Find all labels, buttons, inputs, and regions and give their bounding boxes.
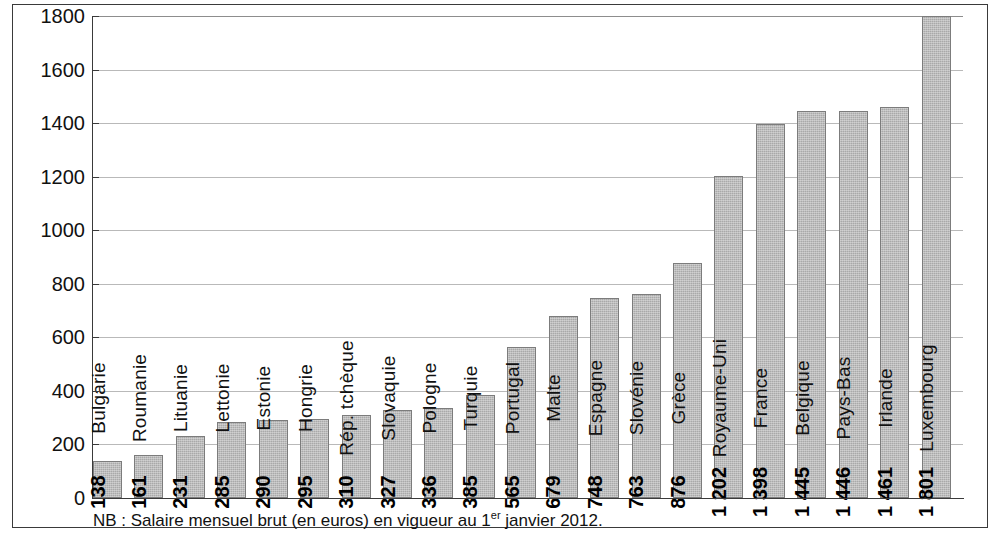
bar-category-label: Rép. tchèque	[337, 340, 356, 455]
bar-category-label: Malte	[544, 374, 563, 421]
y-tick-label: 200	[19, 434, 85, 454]
bar-group[interactable]: Belgique1 445	[797, 16, 826, 498]
bar-category-label: Bulgarie	[89, 362, 108, 433]
bar-group[interactable]: Pologne336	[424, 16, 453, 498]
y-tick-label: 1000	[19, 220, 85, 240]
y-tick-label: 400	[19, 381, 85, 401]
footnote-prefix: NB : Salaire mensuel brut (en euros) en …	[93, 511, 491, 530]
bar-category-label: Pologne	[420, 362, 439, 433]
y-tick-label: 0	[19, 488, 85, 508]
bar[interactable]	[797, 111, 826, 498]
bar-category-label: Royaume-Uni	[710, 339, 729, 457]
bar-value-label: 285	[212, 475, 232, 508]
bar-value-label: 763	[626, 475, 646, 508]
bar-group[interactable]: Royaume-Uni1 202	[714, 16, 743, 498]
bar-group[interactable]: Lettonie285	[217, 16, 246, 498]
y-tick-mark	[92, 177, 99, 178]
bar-value-label: 565	[502, 475, 522, 508]
y-tick-mark	[92, 391, 99, 392]
footnote-ordinal: er	[491, 509, 501, 521]
bar-group[interactable]: Roumanie161	[134, 16, 163, 498]
bar-category-label: Slovaquie	[379, 355, 398, 440]
bar-value-label: 748	[585, 475, 605, 508]
bar-group[interactable]: Rép. tchèque310	[342, 16, 371, 498]
bar-category-label: Turquie	[461, 365, 480, 430]
plot-area: Bulgarie138Roumanie161Lituanie231Lettoni…	[93, 16, 963, 498]
bar-group[interactable]: Luxembourg1 801	[922, 16, 951, 498]
y-tick-mark	[92, 16, 99, 17]
y-tick-mark	[92, 337, 99, 338]
bar-value-label: 161	[129, 475, 149, 508]
y-tick-label: 800	[19, 274, 85, 294]
bar-group[interactable]: Irlande1 461	[880, 16, 909, 498]
bar-category-label: Irlande	[876, 368, 895, 428]
bar-group[interactable]: Lituanie231	[176, 16, 205, 498]
y-tick-mark	[92, 70, 99, 71]
bar-category-label: Roumanie	[130, 354, 149, 442]
bar-category-label: France	[751, 368, 770, 428]
y-tick-mark	[92, 444, 99, 445]
bar-category-label: Pays-Bas	[834, 357, 853, 440]
bar-value-label: 385	[460, 475, 480, 508]
bar-group[interactable]: Hongrie295	[300, 16, 329, 498]
footnote-suffix: janvier 2012.	[501, 511, 603, 530]
bar-value-label: 290	[253, 475, 273, 508]
bar-group[interactable]: Espagne748	[590, 16, 619, 498]
y-tick-label: 1600	[19, 60, 85, 80]
bar-category-label: Luxembourg	[917, 344, 936, 452]
bar-value-label: 1 398	[750, 467, 770, 517]
bar-group[interactable]: Portugal565	[507, 16, 536, 498]
y-tick-mark	[92, 123, 99, 124]
y-tick-label: 600	[19, 327, 85, 347]
bar-category-label: Grèce	[669, 372, 688, 425]
bar-value-label: 1 461	[875, 467, 895, 517]
bar-value-label: 876	[668, 475, 688, 508]
bar-group[interactable]: Slovénie763	[632, 16, 661, 498]
bar-value-label: 336	[419, 475, 439, 508]
bar-value-label: 1 445	[792, 467, 812, 517]
bar-group[interactable]: Slovaquie327	[383, 16, 412, 498]
y-tick-mark	[92, 230, 99, 231]
y-tick-mark	[92, 498, 99, 499]
bar-category-label: Slovénie	[627, 361, 646, 435]
bar-group[interactable]: Pays-Bas1 446	[839, 16, 868, 498]
y-tick-label: 1200	[19, 167, 85, 187]
bar-value-label: 679	[543, 475, 563, 508]
bar[interactable]	[880, 107, 909, 498]
bar-category-label: Portugal	[503, 362, 522, 434]
bar-value-label: 295	[295, 475, 315, 508]
y-tick-mark	[92, 284, 99, 285]
bar-value-label: 1 202	[709, 467, 729, 517]
bar-group[interactable]: Bulgarie138	[93, 16, 122, 498]
bar-group[interactable]: Grèce876	[673, 16, 702, 498]
bar-value-label: 138	[88, 475, 108, 508]
bar[interactable]	[839, 111, 868, 498]
bar-category-label: Lettonie	[213, 363, 232, 432]
bar-group[interactable]: Turquie385	[466, 16, 495, 498]
y-tick-label: 1800	[19, 6, 85, 26]
bar-group[interactable]: France1 398	[756, 16, 785, 498]
x-axis-baseline	[92, 498, 964, 499]
bar-value-label: 310	[336, 475, 356, 508]
bar-value-label: 1 801	[916, 467, 936, 517]
y-axis-tick-labels: 180016001400120010008006004002000	[13, 16, 85, 499]
bar-group[interactable]: Malte679	[549, 16, 578, 498]
bar-group[interactable]: Estonie290	[259, 16, 288, 498]
bar-category-label: Estonie	[254, 366, 273, 431]
chart-figure-frame: 180016001400120010008006004002000 Bulgar…	[12, 4, 988, 528]
bar-category-label: Belgique	[793, 360, 812, 436]
chart-footnote: NB : Salaire mensuel brut (en euros) en …	[93, 505, 603, 531]
bar-value-label: 231	[170, 475, 190, 508]
bar-category-label: Espagne	[586, 360, 605, 436]
bar-value-label: 1 446	[833, 467, 853, 517]
bar-value-label: 327	[378, 475, 398, 508]
y-tick-label: 1400	[19, 113, 85, 133]
bar[interactable]	[756, 124, 785, 498]
bar-category-label: Lituanie	[171, 364, 190, 432]
bar-category-label: Hongrie	[296, 364, 315, 432]
